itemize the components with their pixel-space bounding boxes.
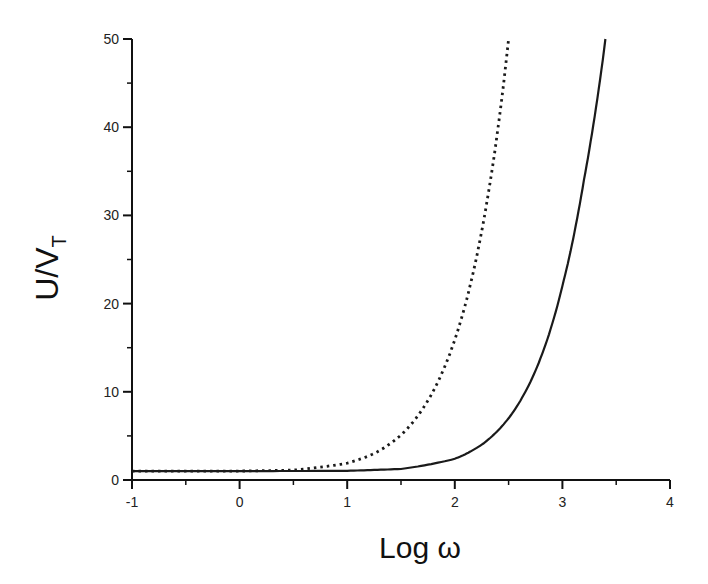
y-tick-label: 50: [103, 31, 119, 47]
svg-text:U/VT: U/VT: [29, 235, 70, 301]
x-tick-label: 3: [559, 494, 567, 510]
x-tick-label: 4: [666, 494, 674, 510]
y-axis: 01020304050: [103, 31, 132, 488]
y-tick-label: 0: [111, 472, 119, 488]
chart: 01020304050 -101234 Log ω U/VT: [0, 0, 708, 584]
x-axis: -101234: [124, 480, 674, 510]
x-tick-label: 0: [236, 494, 244, 510]
y-axis-title-main: U/V: [29, 247, 65, 301]
y-tick-label: 10: [103, 384, 119, 400]
y-tick-label: 20: [103, 296, 119, 312]
y-tick-label: 40: [103, 119, 119, 135]
dotted-curve: [132, 39, 509, 471]
x-axis-title: Log ω: [379, 531, 461, 564]
plot-series: [132, 39, 605, 471]
x-tick-label: 2: [451, 494, 459, 510]
x-tick-label: 1: [343, 494, 351, 510]
y-tick-label: 30: [103, 207, 119, 223]
y-axis-title: U/VT: [29, 235, 70, 301]
solid-curve: [132, 39, 605, 471]
x-tick-label: -1: [126, 494, 139, 510]
y-axis-title-subscript: T: [48, 235, 70, 247]
